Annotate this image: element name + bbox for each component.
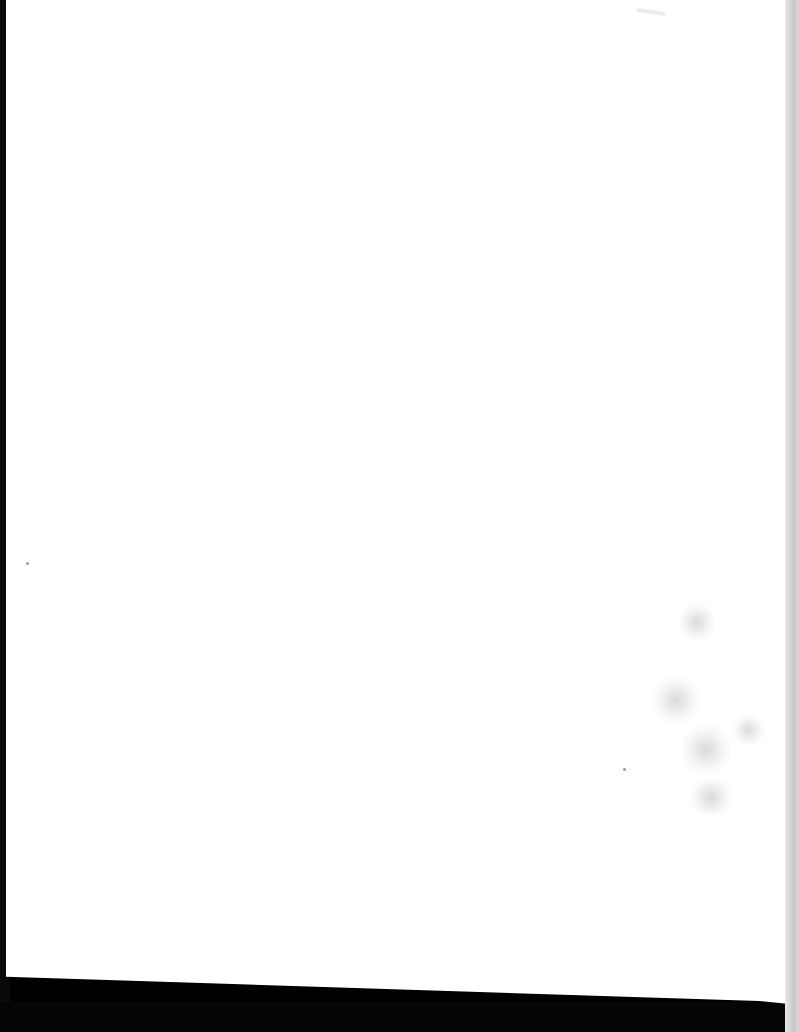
scan-noise	[681, 722, 731, 777]
scan-edge-right	[785, 0, 799, 1032]
scan-noise	[731, 715, 766, 745]
scan-noise	[686, 780, 736, 815]
scan-noise	[651, 675, 701, 725]
scan-border-bottom	[0, 1002, 799, 1032]
blank-scanned-page	[6, 0, 799, 1005]
scan-speck	[26, 562, 29, 565]
faint-mark	[636, 8, 666, 16]
scan-speck	[623, 768, 626, 771]
scan-noise	[680, 600, 714, 644]
